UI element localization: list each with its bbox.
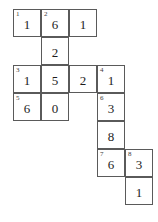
cell-digit: 1 bbox=[126, 186, 152, 200]
number-crossword-grid: 11261231524156063876831 bbox=[0, 0, 158, 222]
grid-cell-r1-c3[interactable]: 1 bbox=[69, 9, 97, 37]
cell-digit: 6 bbox=[14, 102, 40, 116]
grid-cell-r2-c2[interactable]: 2 bbox=[41, 37, 69, 65]
grid-cell-r4-c4[interactable]: 63 bbox=[97, 93, 125, 121]
cell-digit: 2 bbox=[70, 74, 96, 88]
cell-digit: 1 bbox=[98, 74, 124, 88]
cell-digit: 8 bbox=[98, 130, 124, 144]
grid-cell-r6-c5[interactable]: 83 bbox=[125, 149, 153, 177]
grid-cell-r3-c4[interactable]: 41 bbox=[97, 65, 125, 93]
cell-digit: 3 bbox=[126, 158, 152, 172]
grid-cell-r4-c2[interactable]: 0 bbox=[41, 93, 69, 121]
cell-digit: 2 bbox=[42, 46, 68, 60]
cell-digit: 1 bbox=[14, 18, 40, 32]
grid-cell-r1-c2[interactable]: 26 bbox=[41, 9, 69, 37]
grid-cell-r6-c4[interactable]: 76 bbox=[97, 149, 125, 177]
grid-cell-r3-c1[interactable]: 31 bbox=[13, 65, 41, 93]
grid-cell-r3-c2[interactable]: 5 bbox=[41, 65, 69, 93]
cell-digit: 3 bbox=[98, 102, 124, 116]
grid-cell-r7-c5[interactable]: 1 bbox=[125, 177, 153, 205]
cell-digit: 1 bbox=[14, 74, 40, 88]
cell-digit: 5 bbox=[42, 74, 68, 88]
cell-digit: 1 bbox=[70, 18, 96, 32]
grid-cell-r3-c3[interactable]: 2 bbox=[69, 65, 97, 93]
cell-digit: 6 bbox=[42, 18, 68, 32]
grid-cell-r5-c4[interactable]: 8 bbox=[97, 121, 125, 149]
cell-digit: 6 bbox=[98, 158, 124, 172]
grid-cell-r1-c1[interactable]: 11 bbox=[13, 9, 41, 37]
cell-digit: 0 bbox=[42, 102, 68, 116]
grid-cell-r4-c1[interactable]: 56 bbox=[13, 93, 41, 121]
